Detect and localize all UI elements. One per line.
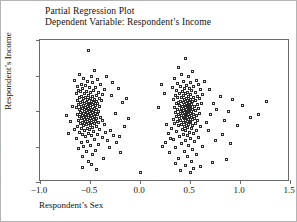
x-axis-tick <box>40 180 41 184</box>
scatter-point <box>84 135 87 138</box>
scatter-point <box>219 95 222 98</box>
scatter-point <box>91 126 94 129</box>
scatter-point <box>191 124 194 127</box>
scatter-point <box>208 88 211 91</box>
scatter-point <box>87 49 90 52</box>
scatter-point <box>180 142 183 145</box>
scatter-point <box>200 102 203 105</box>
x-axis-tick <box>290 180 291 184</box>
scatter-point <box>197 136 200 139</box>
scatter-point <box>214 139 217 142</box>
x-axis-tick <box>240 180 241 184</box>
scatter-point <box>177 66 180 69</box>
scatter-point <box>225 158 228 161</box>
scatter-point <box>195 153 198 156</box>
scatter-point <box>69 120 72 123</box>
y-axis-tick <box>36 76 40 77</box>
scatter-point <box>139 171 142 174</box>
scatter-point <box>75 137 78 140</box>
scatter-point <box>194 109 197 112</box>
scatter-point <box>97 121 100 124</box>
scatter-point <box>119 151 122 154</box>
scatter-point <box>182 133 185 136</box>
scatter-point <box>172 138 175 141</box>
y-axis-tick <box>36 40 40 41</box>
scatter-point <box>87 160 90 163</box>
y-axis-tick <box>36 147 40 148</box>
x-axis-tick <box>140 180 141 184</box>
x-axis-tick <box>190 180 191 184</box>
scatter-point <box>82 145 85 148</box>
x-axis-tick-label: 1.5 <box>283 185 294 195</box>
scatter-point <box>78 73 81 76</box>
scatter-point <box>212 102 215 105</box>
y-axis-title: Respondent’s Income <box>3 32 13 110</box>
scatter-point <box>103 88 106 91</box>
scatter-point <box>190 160 193 163</box>
scatter-point <box>76 85 79 88</box>
x-axis-tick-label: 0.5 <box>183 185 194 195</box>
scatter-point <box>192 132 195 135</box>
scatter-point <box>83 92 86 95</box>
chart-title: Partial Regression Plot <box>45 6 134 16</box>
scatter-point <box>92 130 95 133</box>
scatter-point <box>88 86 91 89</box>
scatter-point <box>191 148 194 151</box>
scatter-point <box>90 163 93 166</box>
scatter-point <box>98 105 101 108</box>
scatter-point <box>182 80 185 83</box>
scatter-point <box>170 127 173 130</box>
scatter-point <box>211 161 214 164</box>
scatter-point <box>209 113 212 116</box>
scatter-point <box>195 129 198 132</box>
scatter-point <box>88 128 91 131</box>
scatter-point <box>173 77 176 80</box>
scatter-point <box>241 104 244 107</box>
scatter-point <box>91 81 94 84</box>
scatter-point <box>86 80 89 83</box>
scatter-point <box>79 90 82 93</box>
x-axis-tick-label: 1.0 <box>233 185 244 195</box>
scatter-point <box>99 83 102 86</box>
scatter-point <box>177 157 180 160</box>
scatter-point <box>184 139 187 142</box>
chart-figure: Partial Regression Plot Dependent Variab… <box>0 0 297 222</box>
scatter-point <box>77 147 80 150</box>
scatter-point <box>123 125 126 128</box>
scatter-point <box>178 135 181 138</box>
scatter-point <box>90 75 93 78</box>
scatter-point <box>96 78 99 81</box>
scatter-point <box>197 83 200 86</box>
scatter-point <box>75 92 78 95</box>
scatter-point <box>178 92 181 95</box>
scatter-point <box>90 134 93 137</box>
scatter-point <box>110 94 113 97</box>
scatter-point <box>176 120 179 123</box>
scatter-point <box>161 145 164 148</box>
scatter-point <box>179 85 182 88</box>
scatter-point <box>197 107 200 110</box>
scatter-point <box>186 155 189 158</box>
x-axis-tick <box>90 180 91 184</box>
scatter-point <box>195 79 198 82</box>
scatter-point <box>87 94 90 97</box>
scatter-point <box>108 146 111 149</box>
scatter-point <box>65 114 68 117</box>
scatter-point <box>101 93 104 96</box>
scatter-point <box>191 70 194 73</box>
scatter-point <box>174 146 177 149</box>
scatter-point <box>257 113 260 116</box>
scatter-point <box>95 168 98 171</box>
scatter-point <box>83 129 86 132</box>
scatter-point <box>96 133 99 136</box>
scatter-point <box>102 157 105 160</box>
scatter-point <box>190 127 193 130</box>
scatter-point <box>189 81 192 84</box>
scatter-point <box>199 125 202 128</box>
scatter-point <box>198 97 201 100</box>
scatter-point <box>189 171 192 174</box>
scatter-point <box>223 119 226 122</box>
scatter-point <box>127 117 130 120</box>
scatter-point <box>179 169 182 172</box>
scatter-point <box>184 164 187 167</box>
